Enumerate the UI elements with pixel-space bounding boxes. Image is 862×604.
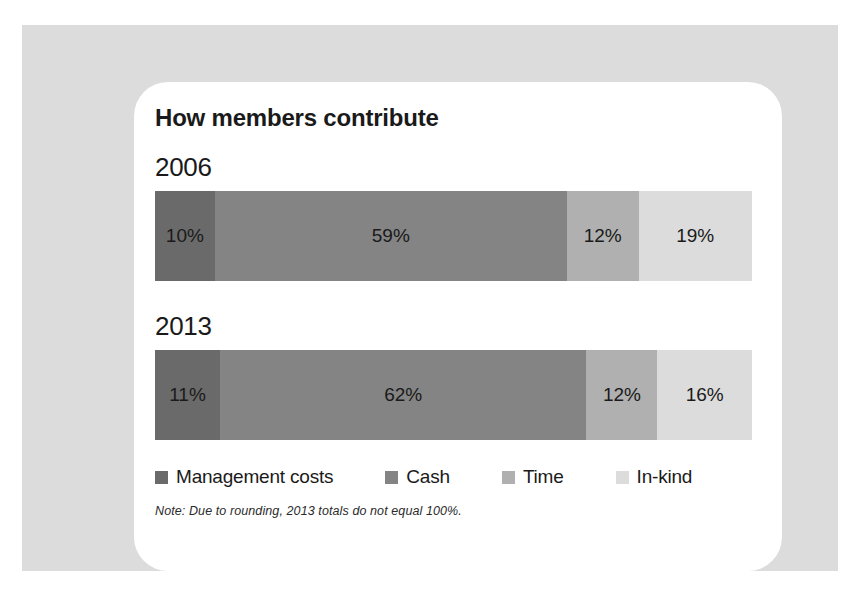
- legend-swatch-icon: [616, 471, 629, 484]
- stacked-bar-2013: 11% 62% 12% 16%: [155, 350, 752, 440]
- bar-segment-value-label: 11%: [169, 384, 206, 406]
- legend-item-management-costs: Management costs: [155, 466, 333, 488]
- chart-panel-background: How members contribute 2006 10% 59% 12%: [22, 25, 838, 571]
- bar-segment-time-2006: 12%: [567, 191, 639, 281]
- bar-segment-management-costs-2013: 11%: [155, 350, 220, 440]
- legend-item-cash: Cash: [385, 466, 450, 488]
- legend-swatch-icon: [155, 471, 168, 484]
- page-root: How members contribute 2006 10% 59% 12%: [0, 0, 862, 604]
- legend-item-label: Cash: [406, 466, 450, 488]
- series-label-2013: 2013: [155, 311, 764, 342]
- bar-segment-management-costs-2006: 10%: [155, 191, 215, 281]
- legend-item-in-kind: In-kind: [616, 466, 693, 488]
- chart-card: How members contribute 2006 10% 59% 12%: [134, 82, 782, 571]
- bar-segment-value-label: 16%: [686, 384, 724, 406]
- page-title: How members contribute: [155, 100, 764, 132]
- bar-segment-in-kind-2006: 19%: [639, 191, 752, 281]
- bar-segment-value-label: 12%: [584, 225, 622, 247]
- legend-swatch-icon: [502, 471, 515, 484]
- legend-item-time: Time: [502, 466, 564, 488]
- chart-note: Note: Due to rounding, 2013 totals do no…: [155, 504, 764, 518]
- bar-segment-cash-2013: 62%: [220, 350, 586, 440]
- bar-segment-time-2013: 12%: [586, 350, 657, 440]
- series-group-2006: 2006 10% 59% 12% 19%: [155, 152, 764, 281]
- legend-item-label: Time: [523, 466, 564, 488]
- bar-segment-value-label: 59%: [372, 225, 410, 247]
- stacked-bar-2006: 10% 59% 12% 19%: [155, 191, 752, 281]
- bar-segment-cash-2006: 59%: [215, 191, 567, 281]
- chart-card-content: How members contribute 2006 10% 59% 12%: [155, 100, 764, 557]
- legend-item-label: In-kind: [637, 466, 693, 488]
- bar-segment-value-label: 19%: [676, 225, 714, 247]
- legend-swatch-icon: [385, 471, 398, 484]
- chart-legend: Management costs Cash Time In-kind: [155, 466, 755, 488]
- legend-item-label: Management costs: [176, 466, 333, 488]
- bar-segment-in-kind-2013: 16%: [657, 350, 752, 440]
- bar-segment-value-label: 12%: [603, 384, 641, 406]
- series-label-2006: 2006: [155, 152, 764, 183]
- bar-segment-value-label: 62%: [384, 384, 422, 406]
- bar-segment-value-label: 10%: [166, 225, 204, 247]
- series-group-2013: 2013 11% 62% 12% 16%: [155, 311, 764, 440]
